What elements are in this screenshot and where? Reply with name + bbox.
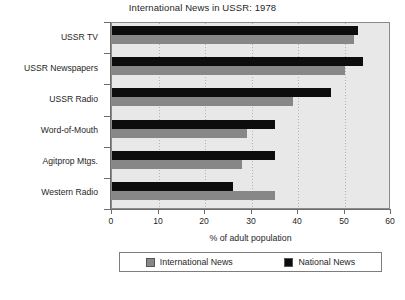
y-axis-tick [104, 178, 110, 179]
x-axis-tick [251, 209, 252, 214]
y-axis-line [110, 22, 111, 210]
legend-swatch-icon [284, 258, 293, 267]
x-axis-tick [204, 209, 205, 214]
chart-title: International News in USSR: 1978 [0, 2, 405, 13]
bar-national-news [112, 26, 358, 35]
bar-group [112, 54, 389, 85]
bar-group [112, 148, 389, 179]
x-axis-tick-label: 60 [375, 216, 405, 226]
x-axis-tick [297, 209, 298, 214]
legend-swatch-icon [146, 258, 155, 267]
y-axis-label: Western Radio [41, 187, 98, 197]
bar-international-news [112, 97, 293, 106]
y-axis-tick [104, 84, 110, 85]
bar-national-news [112, 182, 233, 191]
bar-national-news [112, 120, 275, 129]
bar-chart: International News in USSR: 1978 USSR TV… [0, 0, 405, 300]
x-axis-tick [344, 209, 345, 214]
x-axis-tick-label: 50 [329, 216, 359, 226]
x-axis-tick-label: 0 [96, 216, 126, 226]
bar-group [112, 179, 389, 210]
x-axis-tick-label: 20 [189, 216, 219, 226]
bars-layer [112, 23, 389, 208]
bar-international-news [112, 35, 354, 44]
bar-group [112, 117, 389, 148]
y-axis-label: Agitprop Mtgs. [43, 156, 98, 166]
y-axis-label: Word-of-Mouth [41, 125, 98, 135]
x-axis-title: % of adult population [111, 233, 390, 243]
x-axis-tick [111, 209, 112, 214]
y-axis-label: USSR TV [61, 32, 98, 42]
legend-label: National News [298, 257, 355, 267]
y-axis-tick [104, 147, 110, 148]
y-axis-label: USSR Newspapers [24, 63, 98, 73]
legend-entry: International News [146, 257, 233, 267]
bar-international-news [112, 191, 275, 200]
y-axis-label: USSR Radio [49, 94, 98, 104]
bar-group [112, 85, 389, 116]
bar-international-news [112, 129, 247, 138]
bar-national-news [112, 88, 331, 97]
bar-international-news [112, 160, 242, 169]
x-axis-tick [158, 209, 159, 214]
x-axis-tick [390, 209, 391, 214]
legend-entry: National News [284, 257, 355, 267]
bar-national-news [112, 151, 275, 160]
y-axis-tick [104, 53, 110, 54]
x-axis-tick-label: 10 [143, 216, 173, 226]
bar-national-news [112, 57, 363, 66]
bar-group [112, 23, 389, 54]
legend-label: International News [160, 257, 233, 267]
y-axis-tick [104, 116, 110, 117]
bar-international-news [112, 66, 345, 75]
x-axis-tick-label: 30 [236, 216, 266, 226]
plot-area [111, 22, 390, 209]
y-axis-tick [104, 22, 110, 23]
x-axis-tick-label: 40 [282, 216, 312, 226]
chart-legend: International NewsNational News [119, 252, 382, 272]
